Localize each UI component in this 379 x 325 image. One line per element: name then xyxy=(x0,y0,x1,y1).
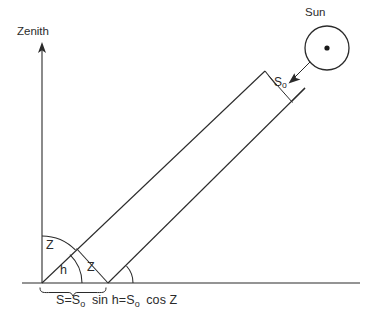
eq-function-sin: sin xyxy=(92,293,108,307)
diagram-canvas: Zenith Sun Z h Z So S=So sin h=So cos Z xyxy=(0,0,379,325)
eq-s0-subscript-2: o xyxy=(135,299,140,309)
eq-equals-1: = xyxy=(64,293,71,307)
eq-s0-subscript-1: o xyxy=(80,299,85,309)
beam-lower-edge xyxy=(108,88,305,283)
eq-arg-h: h xyxy=(112,293,119,307)
beam-lower-edge-tick xyxy=(292,88,306,102)
beam-width-subscript: o xyxy=(282,80,287,90)
eq-s0-symbol-2: S xyxy=(126,293,134,307)
incoming-ray-line xyxy=(295,62,310,77)
eq-function-cos: cos xyxy=(146,293,166,307)
beam-upper-edge xyxy=(42,71,265,283)
beam-width-label: So xyxy=(274,76,287,90)
sun-label: Sun xyxy=(305,7,325,19)
angle-arc-zenith-bottom-right xyxy=(127,266,134,283)
eq-arg-z: Z xyxy=(170,293,178,307)
angle-label-zenith-bottom: Z xyxy=(87,261,95,274)
incoming-ray-arrow-icon xyxy=(289,73,301,83)
zenith-label: Zenith xyxy=(17,26,49,38)
diagram-vector-layer xyxy=(0,0,379,325)
angle-label-zenith-top: Z xyxy=(46,239,54,252)
sun-center-dot-icon xyxy=(324,45,329,50)
angle-label-elevation-h: h xyxy=(60,264,67,277)
beam-width-symbol: S xyxy=(274,75,282,89)
equation-label: S=So sin h=So cos Z xyxy=(56,294,177,309)
angle-arc-elevation-h xyxy=(70,255,82,283)
